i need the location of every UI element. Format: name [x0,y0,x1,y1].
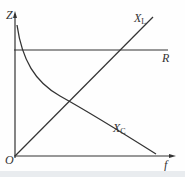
origin-label: O [5,154,14,166]
xc-label: XC [113,122,126,138]
xl-label: XL [134,12,146,28]
z-axis-label: Z [6,9,13,21]
f-axis-label: f [164,159,167,171]
diagram-canvas [0,0,185,177]
impedance-frequency-diagram: Z XL R XC O f [0,0,185,177]
f-axis-arrow-icon [169,154,176,158]
xc-curve [17,25,156,154]
r-label: R [162,52,169,64]
z-axis-arrow-icon [13,11,17,18]
bottom-strip [0,171,185,177]
xl-line [15,17,153,156]
